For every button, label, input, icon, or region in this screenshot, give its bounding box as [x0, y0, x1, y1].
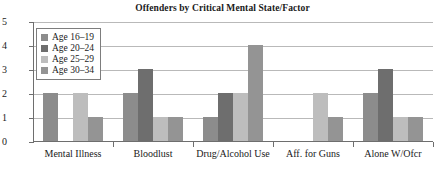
x-tick-mark	[273, 142, 274, 147]
legend-item-label: Age 30–34	[52, 65, 94, 76]
bar	[363, 93, 378, 141]
legend-swatch-icon	[41, 45, 48, 52]
bar	[168, 117, 183, 141]
x-tick-label: Bloodlust	[113, 148, 193, 159]
bar	[88, 117, 103, 141]
x-tick-label: Aff. for Guns	[273, 148, 353, 159]
y-tick-mark	[29, 70, 34, 71]
x-tick-label: Alone W/Ofcr	[353, 148, 433, 159]
legend-item[interactable]: Age 20–24	[41, 43, 94, 54]
x-tick-mark	[353, 142, 354, 147]
x-tick-mark	[113, 142, 114, 147]
y-tick-mark	[29, 22, 34, 23]
bar	[313, 93, 328, 141]
bar-chart: Offenders by Critical Mental State/Facto…	[0, 0, 445, 174]
x-tick-label: Mental Illness	[33, 148, 113, 159]
x-tick-mark	[433, 142, 434, 147]
legend-item-label: Age 16–19	[52, 32, 94, 43]
x-tick-mark	[193, 142, 194, 147]
chart-title: Offenders by Critical Mental State/Facto…	[0, 3, 445, 13]
legend-swatch-icon	[41, 67, 48, 74]
legend: Age 16–19Age 20–24Age 25–29Age 30–34	[36, 28, 101, 80]
bar	[248, 45, 263, 141]
y-tick-label: 2	[0, 89, 7, 99]
bar	[73, 93, 88, 141]
y-tick-mark	[29, 118, 34, 119]
bar	[233, 93, 248, 141]
y-tick-label: 4	[0, 41, 7, 51]
bar	[408, 117, 423, 141]
y-tick-label: 1	[0, 113, 7, 123]
x-tick-label: Drug/Alcohol Use	[193, 148, 273, 159]
y-tick-label: 3	[0, 65, 7, 75]
bar	[123, 93, 138, 141]
legend-swatch-icon	[41, 56, 48, 63]
legend-item[interactable]: Age 30–34	[41, 65, 94, 76]
y-tick-label: 5	[0, 17, 7, 27]
bar	[138, 69, 153, 141]
bar	[43, 93, 58, 141]
bar	[153, 117, 168, 141]
bar	[393, 117, 408, 141]
legend-item-label: Age 20–24	[52, 43, 94, 54]
legend-item-label: Age 25–29	[52, 54, 94, 65]
y-tick-mark	[29, 46, 34, 47]
bar	[218, 93, 233, 141]
legend-item[interactable]: Age 25–29	[41, 54, 94, 65]
legend-swatch-icon	[41, 34, 48, 41]
y-tick-mark	[29, 94, 34, 95]
bar	[328, 117, 343, 141]
bar	[203, 117, 218, 141]
y-tick-label: 0	[0, 137, 7, 147]
bar	[378, 69, 393, 141]
y-tick-mark	[29, 142, 34, 143]
legend-item[interactable]: Age 16–19	[41, 32, 94, 43]
